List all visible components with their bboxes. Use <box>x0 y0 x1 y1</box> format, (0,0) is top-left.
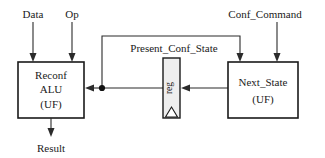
next-state-box[interactable] <box>228 62 298 118</box>
result-output-label: Result <box>37 142 65 154</box>
reconf-alu-label-line3: (UF) <box>40 98 62 111</box>
reconf-alu-label-line2: ALU <box>40 83 63 95</box>
present-conf-state-label: Present_Conf_State <box>130 42 217 54</box>
register-input-arrowhead <box>181 85 190 92</box>
reconf-alu-label-line1: Reconf <box>35 69 67 81</box>
feedback-arrowhead <box>237 53 244 62</box>
op-arrowhead <box>69 53 76 62</box>
next-state-label-line1: Next_State <box>239 76 288 88</box>
register-to-alu-wire <box>85 85 163 92</box>
data-arrowhead <box>30 53 37 62</box>
wire-junction-dot <box>99 85 105 91</box>
block-diagram-canvas: Reconf ALU (UF) reg Next_State (UF) Data… <box>0 0 325 158</box>
data-input-label: Data <box>23 8 44 20</box>
conf-command-arrowhead <box>274 53 281 62</box>
state-register-block[interactable]: reg <box>163 58 180 118</box>
state-register-label: reg <box>164 82 174 94</box>
block-diagram-svg: Reconf ALU (UF) reg Next_State (UF) Data… <box>0 0 325 158</box>
next-state-to-register-wire <box>181 85 228 92</box>
next-state-block[interactable]: Next_State (UF) <box>228 62 298 118</box>
data-input-arrow <box>30 22 37 62</box>
op-input-label: Op <box>65 8 79 20</box>
reconf-alu-block[interactable]: Reconf ALU (UF) <box>18 62 84 118</box>
result-arrowhead <box>48 128 55 137</box>
next-state-label-line2: (UF) <box>252 93 274 106</box>
result-output-arrow <box>48 118 55 137</box>
op-input-arrow <box>69 22 76 62</box>
conf-command-input-label: Conf_Command <box>228 8 302 20</box>
conf-command-input-arrow <box>274 22 281 62</box>
alu-input-arrowhead <box>85 85 94 92</box>
